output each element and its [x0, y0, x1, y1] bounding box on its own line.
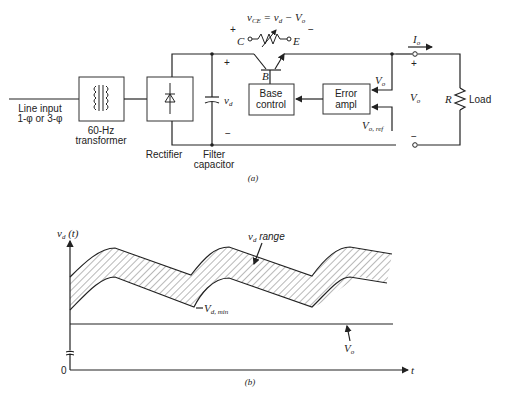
axis-break-icon — [66, 351, 74, 355]
vo-pointer — [347, 326, 350, 341]
caption-b: (b) — [245, 377, 256, 387]
vd-range-label: vd range — [248, 230, 285, 244]
x-axis-label: t — [411, 364, 415, 376]
svg-text:ampl: ampl — [335, 99, 357, 110]
line-input-phase: 1-φ or 3-φ — [17, 113, 63, 124]
vo-output-label: Vo — [410, 91, 421, 105]
regulator-figure: Line input 1-φ or 3-φ 60-Hz transformer … — [0, 0, 505, 398]
svg-text:+: + — [411, 58, 417, 69]
vo-label: Vo — [344, 342, 355, 356]
waveform-chart: 0 t vd (t) vd range Vd, min Vo (b) — [57, 227, 415, 387]
svg-text:+: + — [230, 24, 236, 35]
filter-capacitor-label-2: capacitor — [194, 159, 235, 170]
vo-ref-label: Vo, ref — [362, 119, 384, 133]
vo-feedback-label: Vo — [375, 74, 386, 88]
svg-text:Base: Base — [260, 88, 283, 99]
io-label: Io — [412, 33, 421, 47]
caption-a: (a) — [248, 173, 259, 183]
vd-label: vd — [224, 94, 233, 108]
capacitor-icon — [205, 54, 219, 145]
positive-rail — [172, 54, 396, 77]
rectifier-label: Rectifier — [146, 149, 183, 160]
collector-label: C — [237, 35, 245, 47]
svg-text:−: − — [308, 24, 314, 35]
vd-min-label: Vd, min — [204, 302, 229, 316]
base-terminal-label: B — [262, 70, 269, 82]
svg-text:−: − — [411, 131, 417, 142]
load-label: Load — [469, 94, 491, 105]
svg-text:control: control — [256, 99, 286, 110]
circuit-diagram: Line input 1-φ or 3-φ 60-Hz transformer … — [9, 11, 491, 183]
transistor-icon — [254, 54, 284, 84]
vd-minus: − — [225, 128, 231, 139]
variable-resistor-icon — [248, 30, 291, 47]
y-axis-label: vd (t) — [57, 227, 79, 241]
load-resistor-icon — [455, 88, 465, 110]
svg-text:Error: Error — [335, 88, 358, 99]
vd-plus: + — [224, 57, 230, 68]
r-label: R — [444, 93, 452, 105]
transformer-box — [79, 77, 124, 121]
transformer-label-2: transformer — [75, 135, 127, 146]
origin-label: 0 — [61, 365, 67, 376]
vce-equation: vCE = vd − Vo — [247, 11, 306, 25]
emitter-label: E — [292, 35, 300, 47]
